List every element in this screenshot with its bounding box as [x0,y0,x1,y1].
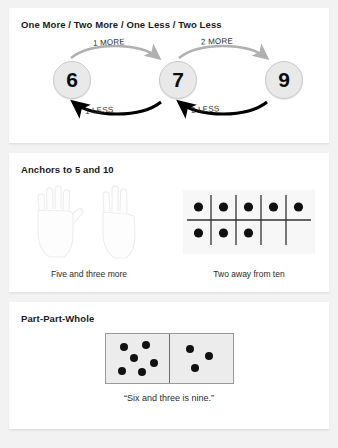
arrow-label-one-more: 1 MORE [93,37,125,48]
hands-row [28,181,150,263]
pip [142,341,150,349]
pip [120,343,128,351]
number-relationship-diagram: 1 MORE 2 MORE 1 LESS 2 LESS 6 7 9 [9,32,329,124]
worksheet-page: One More / Two More / One Less / Two Les… [0,0,338,448]
pip [118,367,126,375]
pip [205,352,213,360]
pip [191,364,199,372]
panel-one-more-two-more: One More / Two More / One Less / Two Les… [9,8,329,144]
arrow-two-more [179,46,267,58]
panel-title-part-part-whole: Part-Part-Whole [9,302,329,324]
pip [186,345,194,353]
open-hand-five-icon [28,183,90,263]
arrow-label-two-less: 2 LESS [191,104,220,114]
domino-half-right [170,334,233,383]
domino-card [105,333,234,384]
number-node-7: 7 [159,61,197,99]
caption-five-and-three-more: Five and three more [51,269,127,279]
hands-group: Five and three more [9,181,169,287]
panel-anchors-to-5-and-10: Anchors to 5 and 10 [9,153,329,293]
pip [150,359,158,367]
anchors-content: Five and three more [9,175,329,287]
ten-frame-group: Two away from ten [169,181,329,287]
panel-title-anchors: Anchors to 5 and 10 [9,153,329,175]
ten-frame-background [183,190,315,254]
caption-two-away-from-ten: Two away from ten [213,269,284,279]
arrow-label-one-less: 1 LESS [85,105,114,115]
domino-half-left [106,334,170,383]
panel-part-part-whole: Part-Part-Whole “Six and three is ni [9,302,329,430]
hand-three-icon [92,183,150,263]
caption-six-and-three-is-nine: “Six and three is nine.” [124,393,214,403]
arrow-one-more [71,46,159,58]
part-part-whole-content: “Six and three is nine.” [9,324,329,403]
number-node-9: 9 [265,61,303,99]
panel-title-more-less: One More / Two More / One Less / Two Les… [9,8,329,30]
arrow-label-two-more: 2 MORE [201,36,233,46]
pip [138,368,146,376]
ten-frame-holder [183,181,315,263]
number-node-6: 6 [53,61,91,99]
pip [130,354,138,362]
ten-frame-icon [186,194,312,246]
